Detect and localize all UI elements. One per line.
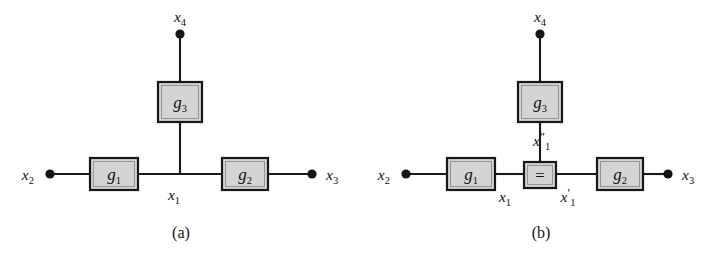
panel-a: g1 g2 g3 x2 x3 x4 x1 (a) [21, 8, 338, 242]
figure-root: g1 g2 g3 x2 x3 x4 x1 (a) [0, 0, 716, 258]
factor-node-g3: g3 [518, 82, 562, 122]
panel-caption-a: (a) [172, 224, 190, 242]
factor-node-g3: g3 [158, 82, 202, 122]
variable-label-x4: x4 [533, 8, 547, 28]
factor-node-g2: g2 [597, 158, 643, 190]
variable-dot-x3 [663, 169, 672, 178]
factor-node-g1: g1 [90, 158, 138, 190]
variable-dot-x2 [45, 169, 54, 178]
factor-node-g1: g1 [447, 158, 495, 190]
variable-label-x2: x2 [377, 166, 390, 186]
equality-glyph: = [535, 166, 545, 185]
variable-dot-x2 [401, 169, 410, 178]
variable-dot-x4 [175, 29, 184, 38]
variable-label-x1: x1 [498, 188, 511, 208]
factor-graph-figure: g1 g2 g3 x2 x3 x4 x1 (a) [0, 0, 716, 258]
panel-b: g1 = g2 g3 x2 x3 x4 [377, 8, 694, 242]
equality-constraint-node: = [524, 162, 556, 188]
variable-label-x1: x1 [167, 186, 180, 206]
panel-caption-b: (b) [532, 224, 551, 242]
factor-node-g2: g2 [222, 158, 268, 190]
variable-label-x3: x3 [681, 166, 694, 186]
variable-label-x1-double-prime: x″1 [532, 130, 550, 152]
variable-label-x4: x4 [173, 8, 187, 28]
variable-label-x3: x3 [325, 166, 338, 186]
variable-label-x2: x2 [21, 166, 34, 186]
variable-dot-x4 [535, 29, 544, 38]
variable-dot-x3 [307, 169, 316, 178]
variable-label-x1-prime: x′1 [560, 186, 576, 208]
